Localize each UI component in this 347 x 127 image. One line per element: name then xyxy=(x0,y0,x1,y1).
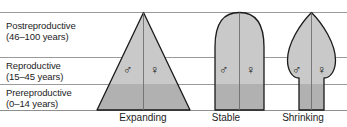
female-symbol-stable: ♀ xyxy=(246,64,255,77)
male-symbol-shrinking: ♂ xyxy=(292,64,301,77)
male-symbol-stable: ♂ xyxy=(219,64,228,77)
pyramid-shrinking xyxy=(288,13,336,111)
female-symbol-expanding: ♀ xyxy=(150,64,159,77)
age-structure-figure: Postreproductive (46–100 years) Reproduc… xyxy=(0,0,347,127)
female-symbol-shrinking: ♀ xyxy=(317,64,326,77)
pyramid-label-shrinking: Shrinking xyxy=(262,111,344,125)
pyramid-expanding xyxy=(97,13,190,111)
male-symbol-expanding: ♂ xyxy=(123,64,132,77)
pyramid-label-expanding: Expanding xyxy=(96,111,190,125)
pyramid-stable xyxy=(215,13,264,111)
pyramid-label-stable: Stable xyxy=(190,111,262,125)
